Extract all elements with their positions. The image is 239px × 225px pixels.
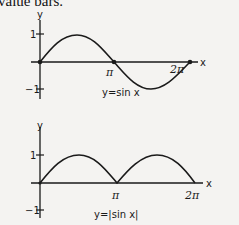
x-tick-label-2pi: 2π [184, 189, 200, 202]
caption-sin-x: y=sin x [102, 87, 140, 98]
x-tick-label-pi: π [111, 189, 120, 202]
x-axis-label: x [206, 178, 212, 189]
y-tick-label-1: 1 [30, 150, 36, 161]
abs-sin-curve [40, 155, 195, 183]
caption-abs-sin-x: y=|sin x| [94, 209, 138, 221]
graph-sin-x: y x 1 −1 π 2π y=sin x [25, 9, 206, 99]
y-tick-label-1: 1 [30, 29, 36, 40]
y-tick-label-m1: −1 [25, 205, 40, 216]
point-2pi [188, 60, 193, 65]
point-origin [38, 60, 43, 65]
x-axis-label: x [200, 57, 206, 68]
x-tick-label-pi: π [105, 66, 114, 79]
point-origin [38, 181, 41, 184]
graph-abs-sin-x: y x 1 −1 π 2π y=|sin x| [25, 120, 212, 221]
y-tick-label-m1: −1 [25, 84, 40, 95]
figure: y x 1 −1 π 2π y=sin x y x 1 −1 π 2π y=|s… [0, 0, 239, 225]
y-axis-label: y [37, 120, 43, 131]
y-axis-label: y [37, 9, 43, 20]
point-pi [112, 60, 117, 65]
